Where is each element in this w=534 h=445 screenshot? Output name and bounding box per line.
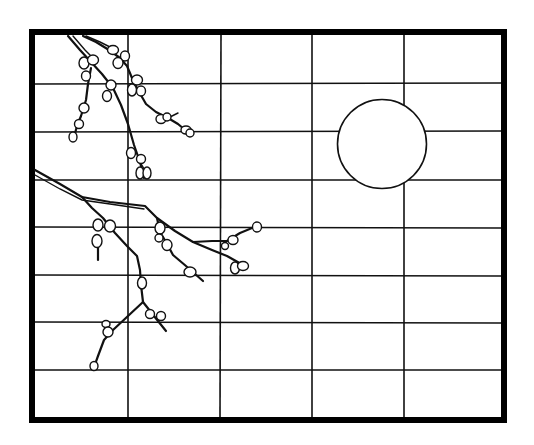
bud — [138, 277, 147, 289]
bud — [162, 240, 172, 251]
bud — [184, 267, 196, 277]
bud — [103, 91, 112, 102]
bud — [157, 312, 166, 321]
bud — [75, 120, 84, 129]
bud — [128, 84, 137, 96]
bud — [92, 235, 102, 248]
lattice-horizontal — [35, 275, 501, 276]
bud — [79, 103, 89, 113]
bud — [88, 55, 99, 65]
bud — [137, 86, 146, 96]
bud — [137, 155, 146, 164]
bud — [163, 113, 171, 121]
bud — [238, 262, 249, 271]
bud — [105, 220, 116, 232]
bud — [127, 148, 136, 159]
lattice-horizontal — [35, 131, 501, 132]
bud — [69, 132, 77, 142]
bud — [108, 46, 119, 55]
bud — [143, 167, 151, 179]
bud — [146, 310, 155, 319]
bud — [253, 222, 262, 232]
illustration-canvas — [0, 0, 534, 445]
bud — [82, 71, 91, 81]
bud — [93, 219, 103, 231]
bud — [113, 58, 123, 69]
bud — [155, 222, 165, 234]
bud — [186, 129, 194, 137]
bud — [106, 80, 116, 90]
bud — [90, 362, 98, 371]
lattice-vertical — [220, 35, 221, 417]
moon — [338, 100, 427, 189]
lattice-horizontal — [35, 83, 501, 84]
bud — [222, 243, 229, 250]
bud — [103, 327, 113, 337]
bud — [155, 234, 163, 242]
bud — [228, 236, 238, 245]
